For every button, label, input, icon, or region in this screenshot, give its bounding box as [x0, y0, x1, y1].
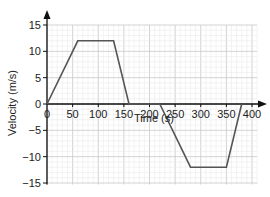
x-tick-label: 400 — [243, 108, 261, 120]
x-tick-label: 150 — [115, 108, 133, 120]
y-tick-label: 5 — [35, 72, 41, 84]
x-tick-label: 50 — [67, 108, 79, 120]
x-tick-label: 100 — [89, 108, 107, 120]
y-tick-label: −5 — [28, 124, 41, 136]
y-tick-label: 0 — [35, 98, 41, 110]
x-tick-label: 350 — [217, 108, 235, 120]
velocity-time-chart: 151050−5−10−15050100150200250300350400 T… — [0, 0, 270, 197]
y-tick-label: 10 — [29, 45, 41, 57]
x-tick-label: 300 — [192, 108, 210, 120]
y-tick-label: 15 — [29, 19, 41, 31]
y-axis-label: Velocity (m/s) — [6, 70, 18, 136]
y-tick-label: −10 — [22, 151, 41, 163]
x-tick-label: 0 — [44, 108, 50, 120]
x-axis-label: Time (s) — [134, 112, 174, 124]
y-tick-label: −15 — [22, 177, 41, 189]
axes — [43, 10, 267, 185]
